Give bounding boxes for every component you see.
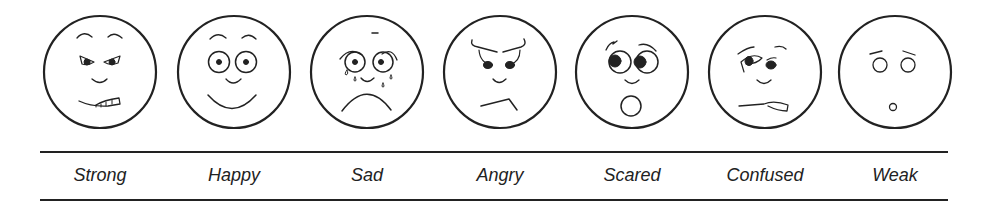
faces-row [0, 0, 997, 145]
label-strong: Strong [40, 165, 160, 186]
face-weak-icon [839, 16, 951, 128]
face-strong-icon [44, 16, 156, 128]
face-sad-icon [311, 16, 423, 128]
label-scared: Scared [572, 165, 692, 186]
face-angry-icon [444, 16, 556, 128]
label-happy: Happy [174, 165, 294, 186]
label-confused: Confused [705, 165, 825, 186]
top-divider [40, 151, 948, 153]
bottom-divider [40, 199, 948, 201]
label-sad: Sad [307, 165, 427, 186]
face-confused-icon [709, 16, 821, 128]
face-scared-icon [576, 16, 688, 128]
label-angry: Angry [440, 165, 560, 186]
label-weak: Weak [835, 165, 955, 186]
face-happy-icon [178, 16, 290, 128]
